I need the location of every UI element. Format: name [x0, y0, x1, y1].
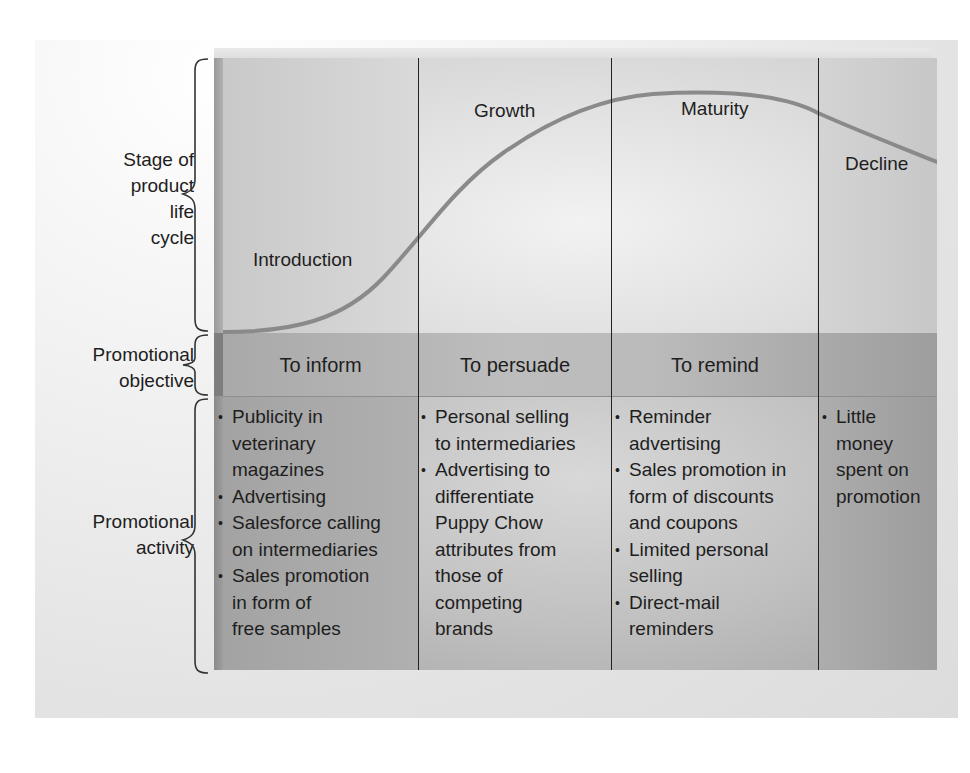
row-label-objective: Promotional objective [20, 342, 194, 394]
brace-stage-icon [178, 55, 212, 335]
activity-item: Littlemoneyspent onpromotion [822, 404, 937, 510]
objective-to-inform: To inform [223, 354, 418, 377]
row-label-objective-line: objective [20, 368, 194, 394]
row-label-activity-line: activity [20, 535, 194, 561]
lifecycle-curve [223, 58, 937, 338]
stage-label-maturity: Maturity [681, 98, 749, 120]
row-label-activity: Promotional activity [20, 509, 194, 561]
brace-activity-icon [178, 395, 212, 677]
brace-objective-icon [178, 332, 212, 398]
objective-to-remind: To remind [612, 354, 818, 377]
box-top-bevel [214, 48, 933, 58]
row-label-objective-line: Promotional [20, 342, 194, 368]
activity-item: Sales promotion inform of discountsand c… [615, 457, 820, 537]
activities-introduction: Publicity inveterinarymagazines Advertis… [218, 404, 418, 643]
row-label-stage-line: Stage of [60, 147, 194, 173]
row-label-stage-line: product [60, 173, 194, 199]
activity-item: Direct-mailreminders [615, 590, 820, 643]
objective-to-persuade: To persuade [419, 354, 611, 377]
promotion-lifecycle-table: Introduction Growth Maturity Decline To … [223, 58, 937, 670]
row-label-stage-line: life [60, 199, 194, 225]
activity-item: Limited personalselling [615, 537, 820, 590]
activity-item: Advertising [218, 484, 418, 511]
stage-label-decline: Decline [845, 153, 908, 175]
activity-item: Advertising todifferentiatePuppy Chowatt… [421, 457, 611, 643]
activity-item: Personal sellingto intermediaries [421, 404, 611, 457]
row-label-activity-line: Promotional [20, 509, 194, 535]
stage-label-introduction: Introduction [253, 249, 352, 271]
activities-decline: Littlemoneyspent onpromotion [822, 404, 937, 510]
activity-item: Reminderadvertising [615, 404, 820, 457]
activity-item: Salesforce callingon intermediaries [218, 510, 418, 563]
band-divider [223, 396, 937, 397]
activity-item: Publicity inveterinarymagazines [218, 404, 418, 484]
stage-label-growth: Growth [474, 100, 535, 122]
row-label-stage: Stage of product life cycle [60, 147, 194, 251]
row-label-stage-line: cycle [60, 225, 194, 251]
activity-item: Sales promotionin form offree samples [218, 563, 418, 643]
activities-maturity: Reminderadvertising Sales promotion info… [615, 404, 820, 643]
activities-growth: Personal sellingto intermediaries Advert… [421, 404, 611, 643]
